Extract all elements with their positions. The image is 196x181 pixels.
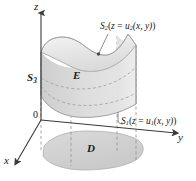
bottom-surface-eq-sign: = <box>136 116 146 126</box>
lateral-surface-subscript: 3 <box>33 77 37 85</box>
x-axis-label: x <box>4 155 9 166</box>
top-surface-label: S2(z = u2(x, y)) <box>100 22 155 32</box>
bottom-surface-paren-close: ) <box>173 116 176 126</box>
bottom-surface-label: S1(z = u1(x, y)) <box>121 117 176 127</box>
lateral-surface-label: S3 <box>27 72 37 85</box>
leader-line-s2 <box>97 34 108 56</box>
solid-region-label: E <box>73 70 80 81</box>
top-surface-eq-args: (x, y) <box>133 21 153 31</box>
top-surface-eq-sign: = <box>115 21 125 31</box>
bottom-surface-eq-args: (x, y) <box>154 116 174 126</box>
solid-region-figure: z y x 0 E D S3 S2(z = u2(x, y)) S1(z = u… <box>0 0 196 181</box>
top-surface-paren-close: ) <box>152 21 155 31</box>
origin-label: 0 <box>33 110 38 120</box>
figure-canvas <box>0 0 196 181</box>
solid-region-body <box>41 34 136 117</box>
z-axis-label: z <box>34 1 38 12</box>
projection-region-label: D <box>87 143 95 154</box>
y-axis-label: y <box>178 132 183 143</box>
